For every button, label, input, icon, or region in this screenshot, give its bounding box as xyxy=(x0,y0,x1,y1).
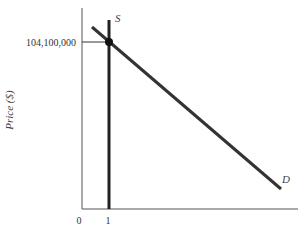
x-tick-0: 0 xyxy=(77,215,82,226)
x-tick-1: 1 xyxy=(106,215,111,226)
supply-demand-chart: 104,100,000 0 1 S D Price ($) xyxy=(0,0,299,235)
equilibrium-point xyxy=(105,38,113,46)
supply-label: S xyxy=(115,12,121,24)
demand-label: D xyxy=(281,173,290,185)
y-axis-label: Price ($) xyxy=(3,90,16,131)
y-tick-label: 104,100,000 xyxy=(26,37,76,48)
demand-curve xyxy=(92,27,281,189)
